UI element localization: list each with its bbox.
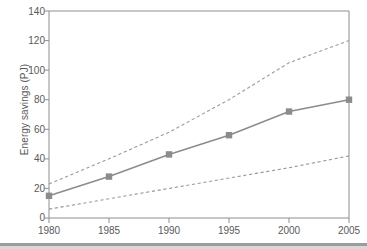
data-point-marker — [226, 132, 232, 138]
plot-frame — [49, 11, 349, 218]
data-point-marker — [286, 108, 292, 114]
data-point-marker — [166, 151, 172, 157]
data-point-marker — [46, 193, 52, 199]
x-axis-ticks — [49, 218, 349, 223]
data-point-marker — [346, 97, 352, 103]
series-upper-bound-line — [49, 41, 349, 184]
data-point-marker — [106, 173, 112, 179]
y-axis-ticks — [44, 11, 49, 218]
chart-container: Energy savings (PJ) 140 120 100 80 60 40… — [0, 0, 367, 249]
series-lower-bound-line — [49, 156, 349, 209]
series-central-line — [49, 100, 349, 196]
plot-area — [0, 0, 367, 249]
